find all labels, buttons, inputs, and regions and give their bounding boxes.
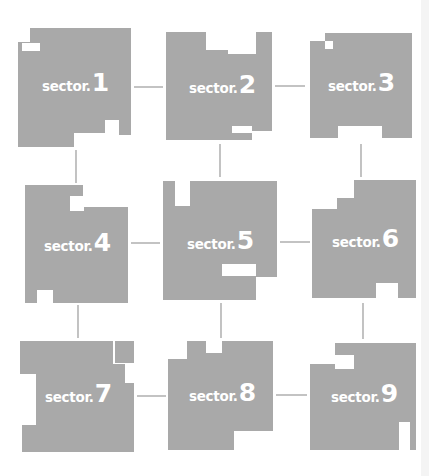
sector-label-prefix: sector. — [331, 389, 380, 405]
sector-6-label: sector. 6 — [332, 226, 399, 251]
sector-8-label: sector. 8 — [189, 380, 256, 405]
sector-3-label: sector. 3 — [328, 70, 395, 95]
sector-1-label: sector. 1 — [42, 70, 109, 95]
sector-label-prefix: sector. — [332, 234, 381, 250]
sector-label-number: 3 — [378, 70, 395, 95]
sector-label-number: 9 — [381, 381, 398, 406]
sector-7-label: sector. 7 — [45, 381, 112, 406]
sector-7-fragment — [115, 341, 134, 363]
sector-2-label: sector. 2 — [189, 72, 256, 97]
sector-label-number: 7 — [95, 381, 112, 406]
sector-label-prefix: sector. — [328, 78, 377, 94]
sector-label-number: 4 — [94, 230, 111, 255]
page-edge — [421, 0, 429, 476]
sector-label-number: 2 — [239, 72, 256, 97]
sector-label-number: 8 — [239, 380, 256, 405]
sector-label-number: 5 — [237, 228, 254, 253]
sector-label-number: 1 — [92, 70, 109, 95]
sector-9-label: sector. 9 — [331, 381, 398, 406]
sector-label-prefix: sector. — [187, 236, 236, 252]
sector-label-prefix: sector. — [42, 78, 91, 94]
sector-5-label: sector. 5 — [187, 228, 254, 253]
sector-label-prefix: sector. — [189, 80, 238, 96]
sector-label-number: 6 — [382, 226, 399, 251]
sector-label-prefix: sector. — [189, 388, 238, 404]
sector-4-label: sector. 4 — [44, 230, 111, 255]
sector-label-prefix: sector. — [44, 238, 93, 254]
sector-label-prefix: sector. — [45, 389, 94, 405]
